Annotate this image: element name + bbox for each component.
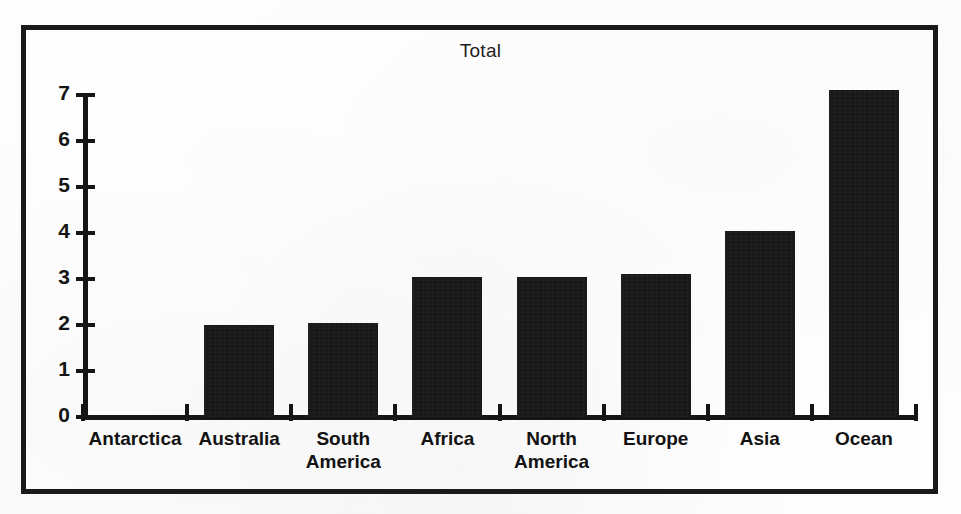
bar [517,277,587,417]
x-axis-tick [185,404,189,421]
y-axis-tick-label: 1 [36,357,70,381]
y-axis-tick-label: 6 [36,127,70,151]
x-axis-tick [81,404,85,421]
bar-fill [412,277,482,417]
bar-fill [517,277,587,417]
y-axis-tick [76,323,95,327]
x-axis-label-line: Ocean [800,427,928,450]
bar [725,231,795,417]
y-axis-tick [76,369,95,373]
x-axis-label-line: America [488,450,616,473]
y-axis-tick-label: 2 [36,311,70,335]
chart-title: Total [0,40,961,62]
bar [829,90,899,417]
y-axis-tick [76,231,95,235]
bar-fill [621,274,691,417]
y-axis-tick [76,139,95,143]
y-axis-tick-label: 0 [36,403,70,427]
x-axis-label: Ocean [800,427,928,450]
y-axis-tick [76,415,95,419]
bar-chart-plot-area: 01234567 AntarcticaAustraliaSouthAmerica… [0,0,961,514]
bar [308,323,378,417]
y-axis-tick-label: 3 [36,265,70,289]
x-axis-tick [393,404,397,421]
x-axis-tick [289,404,293,421]
y-axis-tick-label: 7 [36,81,70,105]
x-axis-label-line: America [279,450,407,473]
y-axis-tick-label: 4 [36,219,70,243]
bar-fill [829,90,899,417]
bar-fill [725,231,795,417]
x-axis-tick [602,404,606,421]
x-axis-tick [498,404,502,421]
y-axis-tick [76,277,95,281]
bar [621,274,691,417]
y-axis-tick-label: 5 [36,173,70,197]
bar-fill [308,323,378,417]
bar [412,277,482,417]
x-axis-tick [914,404,918,421]
y-axis-tick [76,185,95,189]
x-axis-tick [810,404,814,421]
chart-page: Total 01234567 AntarcticaAustraliaSouthA… [0,0,961,514]
x-axis-tick [706,404,710,421]
bar-fill [204,325,274,417]
y-axis-tick [76,93,95,97]
bar [204,325,274,417]
